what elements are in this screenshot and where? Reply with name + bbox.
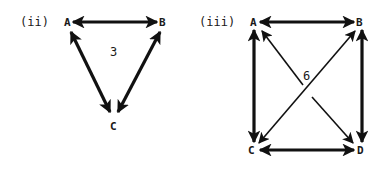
- edge-A-D-lower: [312, 97, 353, 143]
- node-D: D: [357, 144, 364, 157]
- node-A: A: [64, 16, 71, 29]
- edge-A-C: [71, 32, 110, 112]
- node-C: C: [248, 144, 255, 157]
- edge-B-C: [259, 31, 355, 143]
- graph-figure: (ii) A B C 3 (iii) A B C D 6: [0, 0, 388, 173]
- edge-B-C: [118, 32, 160, 112]
- node-B: B: [159, 16, 166, 29]
- diagram-iii: (iii) A B C D 6: [199, 15, 364, 157]
- node-B: B: [356, 16, 363, 29]
- center-number: 6: [303, 69, 310, 83]
- node-C: C: [110, 120, 117, 133]
- node-A: A: [250, 16, 257, 29]
- edge-A-D-upper: [262, 31, 303, 85]
- diagram-label-ii: (ii): [20, 15, 49, 29]
- diagram-ii: (ii) A B C 3: [20, 15, 166, 133]
- center-number: 3: [110, 45, 117, 59]
- diagram-label-iii: (iii): [199, 15, 235, 29]
